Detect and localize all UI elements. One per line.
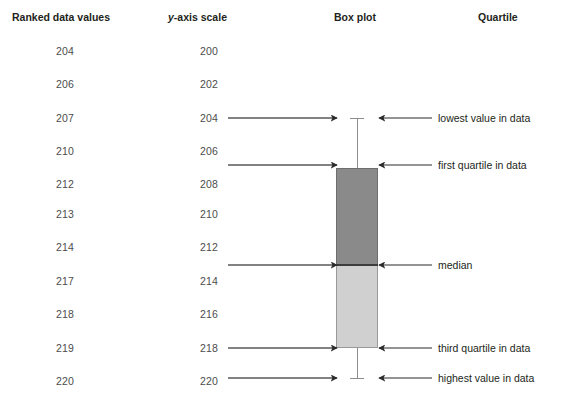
callout-label-highest-value-in-data: highest value in data xyxy=(438,372,534,384)
callout-label-third-quartile-in-data: third quartile in data xyxy=(438,342,530,354)
callout-label-lowest-value-in-data: lowest value in data xyxy=(438,112,530,124)
box-plot-figure: Ranked data values y-axis scale Box plot… xyxy=(0,0,582,408)
callout-label-first-quartile-in-data: first quartile in data xyxy=(438,159,527,171)
callout-label-median: median xyxy=(438,259,472,271)
